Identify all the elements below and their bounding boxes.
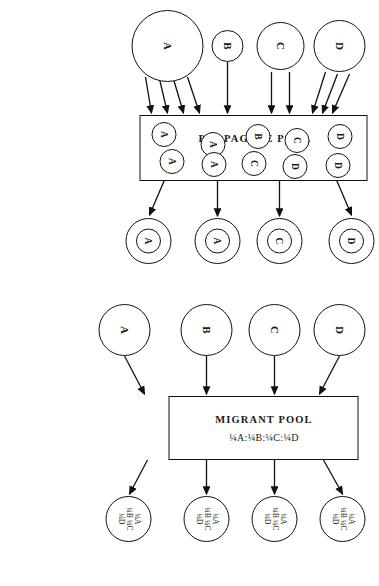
propagule-item: C	[284, 128, 309, 153]
migrant-output-circle: ¼A ¼B ¼C ¼D	[251, 496, 297, 542]
figure-root: D C B A PROPAGULE POOL D C B A A	[0, 0, 379, 586]
propagule-output-label: A	[143, 238, 153, 245]
migrant-pool-ratio: ¼A:¼B:¼C:¼D	[229, 432, 298, 443]
propagule-item: D	[325, 153, 350, 178]
propagule-pool-panel: D C B A PROPAGULE POOL D C B A A	[0, 0, 379, 272]
source-circle-b: B	[211, 30, 243, 62]
propagule-output-circle: A	[194, 218, 240, 264]
propagule-item-label: A	[159, 131, 169, 138]
propagule-item: A	[201, 152, 226, 177]
ratio-line-3: ¼D	[116, 513, 124, 524]
migrant-source-circle-b: B	[180, 304, 232, 356]
source-label: A	[118, 326, 130, 334]
source-label: C	[274, 42, 286, 50]
ratio-line-3: ¼D	[262, 513, 270, 524]
migrant-output-circle: ¼A ¼B ¼C ¼D	[183, 496, 229, 542]
propagule-item-label: A	[209, 161, 219, 168]
propagule-item: C	[241, 151, 266, 176]
source-circle-d: D	[313, 20, 365, 72]
propagule-output-inner: A	[205, 229, 230, 254]
migrant-input-arrows	[124, 356, 339, 394]
propagule-pool-box: PROPAGULE POOL D C B A A D D C A A	[139, 115, 367, 181]
migrant-pool-title: MIGRANT POOL	[215, 414, 312, 425]
propagule-item: A	[151, 122, 176, 147]
source-label: B	[200, 326, 212, 334]
source-label: B	[221, 42, 233, 50]
propagule-output-inner: C	[267, 229, 292, 254]
propagule-item-label: D	[290, 163, 300, 170]
propagule-output-label: D	[346, 238, 356, 245]
propagule-item-label: D	[333, 162, 343, 169]
propagule-item: B	[245, 124, 270, 149]
migrant-output-circle: ¼A ¼B ¼C ¼D	[105, 496, 151, 542]
propagule-item: A	[159, 149, 184, 174]
propagule-output-inner: A	[136, 229, 161, 254]
propagule-output-arrows	[149, 180, 351, 216]
propagule-output-inner: D	[339, 229, 364, 254]
propagule-output-label: C	[274, 238, 284, 245]
arrow-group-c	[271, 72, 289, 113]
propagule-item: D	[327, 124, 352, 149]
source-circle-a: A	[131, 10, 203, 82]
source-label: C	[268, 326, 280, 334]
ratio-line-3: ¼D	[194, 513, 202, 524]
propagule-item-label: B	[253, 133, 263, 139]
propagule-output-circle: A	[125, 218, 171, 264]
migrant-output-circle: ¼A ¼B ¼C ¼D	[319, 496, 365, 542]
source-label: D	[333, 326, 345, 334]
propagule-output-circle: D	[328, 218, 374, 264]
propagule-item: D	[282, 154, 307, 179]
propagule-output-circle: C	[256, 218, 302, 264]
arrow-group-d	[312, 72, 349, 113]
migrant-pool-panel: D C B A MIGRANT POOL ¼A:¼B:¼C:¼D ¼A ¼B ¼…	[0, 286, 379, 536]
arrow-group-a	[145, 77, 199, 113]
migrant-source-circle-d: D	[313, 304, 365, 356]
source-circle-c: C	[256, 22, 304, 70]
propagule-output-label: A	[212, 238, 222, 245]
propagule-item-label: A	[167, 158, 177, 165]
source-label: D	[333, 42, 345, 50]
propagule-item-label: A	[208, 141, 218, 148]
migrant-source-circle-a: A	[98, 304, 150, 356]
migrant-source-circle-c: C	[248, 304, 300, 356]
source-label: A	[161, 42, 173, 50]
propagule-item-label: D	[335, 133, 345, 140]
migrant-pool-box: MIGRANT POOL ¼A:¼B:¼C:¼D	[168, 396, 358, 460]
migrant-output-arrows	[129, 460, 342, 494]
propagule-item-label: C	[249, 160, 259, 167]
propagule-item-label: C	[292, 137, 302, 144]
ratio-line-3: ¼D	[330, 513, 338, 524]
